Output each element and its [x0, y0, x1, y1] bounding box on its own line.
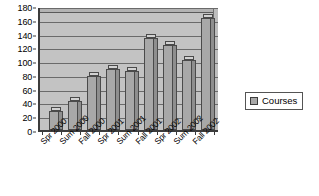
- bar-top-face: [127, 67, 137, 71]
- bar-top-face: [165, 41, 175, 45]
- x-axis-category-labels: Spr 2000Sum 2000Fall 2000Spr 2001Sum 200…: [0, 136, 240, 196]
- bar-top-face: [184, 56, 194, 60]
- y-axis-tick-mark: [33, 63, 36, 64]
- y-axis-tick-label: 120: [18, 45, 32, 54]
- y-axis: 020406080100120140160180: [0, 8, 36, 132]
- y-axis-tick-mark: [33, 21, 36, 22]
- y-axis-tick-label: 60: [22, 86, 32, 95]
- bar-top-face: [146, 34, 156, 38]
- legend-label-courses: Courses: [262, 96, 297, 106]
- y-axis-tick-label: 140: [18, 31, 32, 40]
- bar: [163, 41, 173, 130]
- bar: [144, 34, 154, 130]
- y-axis-tick-label: 180: [18, 4, 32, 13]
- y-axis-tick-mark: [33, 35, 36, 36]
- y-axis-tick-label: 160: [18, 17, 32, 26]
- bar-series-courses: [40, 8, 218, 130]
- plot-area: [38, 8, 218, 132]
- y-axis-tick-mark: [33, 132, 36, 133]
- x-axis-tick-mark: [214, 132, 215, 135]
- bar-top-face: [70, 97, 80, 101]
- y-axis-tick-mark: [33, 90, 36, 91]
- bar-top-face: [51, 107, 61, 111]
- legend-swatch-courses: [250, 97, 258, 105]
- bar-top-face: [108, 65, 118, 69]
- y-axis-tick-mark: [33, 76, 36, 77]
- bar: [201, 14, 211, 130]
- bar-chart-figure: 020406080100120140160180 Spr 2000Sum 200…: [0, 0, 319, 196]
- y-axis-tick-mark: [33, 104, 36, 105]
- bar-front-face: [163, 45, 173, 130]
- y-axis-tick-label: 40: [22, 100, 32, 109]
- y-axis-tick-mark: [33, 49, 36, 50]
- y-axis-tick-mark: [33, 8, 36, 9]
- chart-legend: Courses: [245, 92, 303, 110]
- bar-front-face: [144, 38, 154, 130]
- y-axis-tick-label: 100: [18, 59, 32, 68]
- y-axis-tick-label: 80: [22, 72, 32, 81]
- bar-front-face: [201, 18, 211, 130]
- y-axis-tick-label: 20: [22, 114, 32, 123]
- y-axis-tick-mark: [33, 118, 36, 119]
- bar-top-face: [203, 14, 213, 18]
- bar-top-face: [89, 72, 99, 76]
- bar-side-face: [211, 18, 215, 130]
